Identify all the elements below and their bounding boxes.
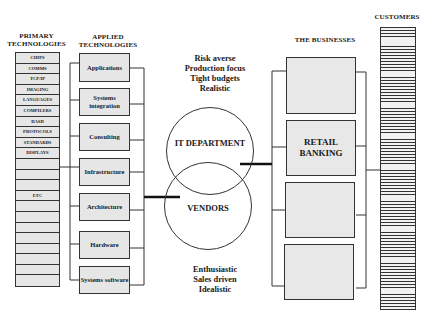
primary-tech-blank (16, 244, 59, 255)
business-box-4 (284, 244, 354, 300)
primary-tech-tcpip: TCP/IP (16, 74, 59, 85)
vendors-traits: Enthusiastic Sales driven Idealistic (170, 265, 260, 295)
applied-tech-infrastructure: Infrastructure (79, 158, 130, 186)
primary-tech-etc: ETC (16, 191, 59, 202)
trait-realistic: Realistic (170, 84, 260, 94)
primary-tech-languages: LANGUAGES (16, 95, 59, 106)
vendors-label: VENDORS (172, 203, 244, 213)
primary-tech-blank (16, 159, 59, 170)
primary-tech-blank (16, 201, 59, 212)
applied-tech-architecture: Architecture (79, 193, 130, 221)
customers-column (380, 27, 416, 310)
primary-tech-dasd: DASD (16, 117, 59, 128)
primary-tech-blank (16, 180, 59, 191)
applied-tech-consulting: Consulting (79, 123, 130, 151)
trait-risk-averse: Risk averse (170, 54, 260, 64)
primary-tech-blank (16, 254, 59, 265)
applied-tech-applications: Applications (79, 53, 130, 82)
applied-tech-systems-integration: Systems integration (79, 88, 130, 116)
primary-tech-standards: STANDARDS (16, 138, 59, 149)
trait-production-focus: Production focus (170, 64, 260, 74)
primary-tech-blank (16, 265, 59, 276)
trait-tight-budgets: Tight budgets (170, 74, 260, 84)
primary-technologies-list: CHIPS COMMS TCP/IP IMAGING LANGUAGES COM… (15, 52, 60, 287)
primary-tech-blank (16, 170, 59, 181)
primary-tech-imaging: IMAGING (16, 85, 59, 96)
it-department-traits: Risk averse Production focus Tight budge… (170, 54, 260, 94)
business-box-1 (286, 57, 356, 114)
applied-tech-hardware: Hardware (79, 231, 130, 259)
trait-sales-driven: Sales driven (170, 275, 260, 285)
primary-tech-blank (16, 275, 59, 286)
trait-enthusiastic: Enthusiastic (170, 265, 260, 275)
primary-tech-protocols: PROTOCOLS (16, 127, 59, 138)
primary-tech-blank (16, 212, 59, 223)
primary-tech-blank (16, 223, 59, 234)
business-box-retail-banking: RETAIL BANKING (286, 120, 356, 176)
trait-idealistic: Idealistic (170, 285, 260, 295)
primary-tech-displays: DISPLAYS (16, 148, 59, 159)
primary-tech-blank (16, 233, 59, 244)
primary-tech-compilers: COMPILERS (16, 106, 59, 117)
applied-tech-systems-software: Systems software (79, 266, 130, 294)
it-department-label: IT DEPARTMENT (172, 138, 248, 148)
business-box-3 (285, 182, 355, 238)
primary-tech-chips: CHIPS (16, 53, 59, 64)
primary-tech-comms: COMMS (16, 64, 59, 75)
